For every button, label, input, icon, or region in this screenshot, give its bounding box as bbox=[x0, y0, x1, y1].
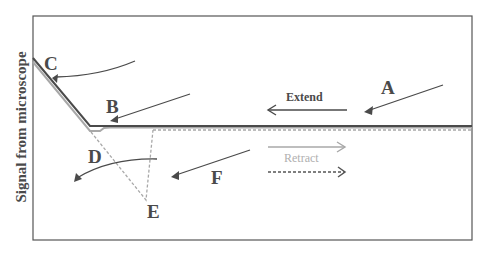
extend-label: Extend bbox=[286, 90, 323, 104]
pointer-B bbox=[110, 94, 190, 123]
retract-legend-dashed-arrow bbox=[268, 167, 345, 177]
label-A: A bbox=[381, 77, 395, 98]
force-curve-diagram: C B A D E F Extend Retract bbox=[0, 0, 486, 253]
pointer-D bbox=[74, 159, 157, 182]
label-E: E bbox=[147, 201, 160, 222]
extend-curve bbox=[33, 58, 472, 126]
retract-label: Retract bbox=[284, 151, 319, 165]
extend-legend-arrow bbox=[268, 105, 347, 115]
retract-dashed-curve bbox=[91, 130, 472, 200]
label-D: D bbox=[88, 146, 102, 167]
arrowhead-icon bbox=[74, 173, 82, 182]
arrowhead-icon bbox=[364, 106, 373, 115]
label-C: C bbox=[44, 53, 58, 74]
label-F: F bbox=[211, 167, 223, 188]
label-B: B bbox=[106, 96, 119, 117]
pointer-A bbox=[364, 85, 443, 115]
pointer-C bbox=[52, 61, 135, 83]
arrowhead-icon bbox=[171, 171, 179, 180]
